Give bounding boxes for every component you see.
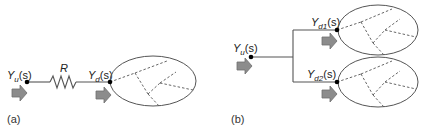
dendritic-network-ellipse-b2 [338,57,418,107]
node-upstream-b [249,55,254,60]
branch-1-arrow-icon [322,33,337,49]
dendritic-network-ellipse-a [110,56,196,106]
resistor-icon [50,76,76,88]
panel-label-b: (b) [231,113,244,125]
dendritic-network-ellipse-b1 [338,5,418,55]
node-branch-1 [335,28,340,33]
resistor-label: R [60,62,68,74]
upstream-arrow-icon-b [237,58,252,74]
figure-canvas: Yu(s) R Yd(s) (a) Yu(s) [0,0,429,134]
upstream-arrow-icon-a [12,85,27,101]
node-downstream-a [108,80,113,85]
panel-b: Yu(s) Yd1(s) Yd2(s) [231,5,418,125]
branch-2-admittance-label: Yd2(s) [307,68,336,83]
node-upstream-a [25,80,30,85]
upstream-admittance-label-b: Yu(s) [233,42,258,57]
branch-tree-icon-b2 [337,61,416,107]
branch-2-arrow-icon [322,86,337,102]
panel-label-a: (a) [7,113,20,125]
panel-a: Yu(s) R Yd(s) (a) [7,56,196,125]
branch-tree-icon-b1 [337,9,416,55]
node-branch-2 [335,80,340,85]
downstream-arrow-icon-a [96,87,111,103]
